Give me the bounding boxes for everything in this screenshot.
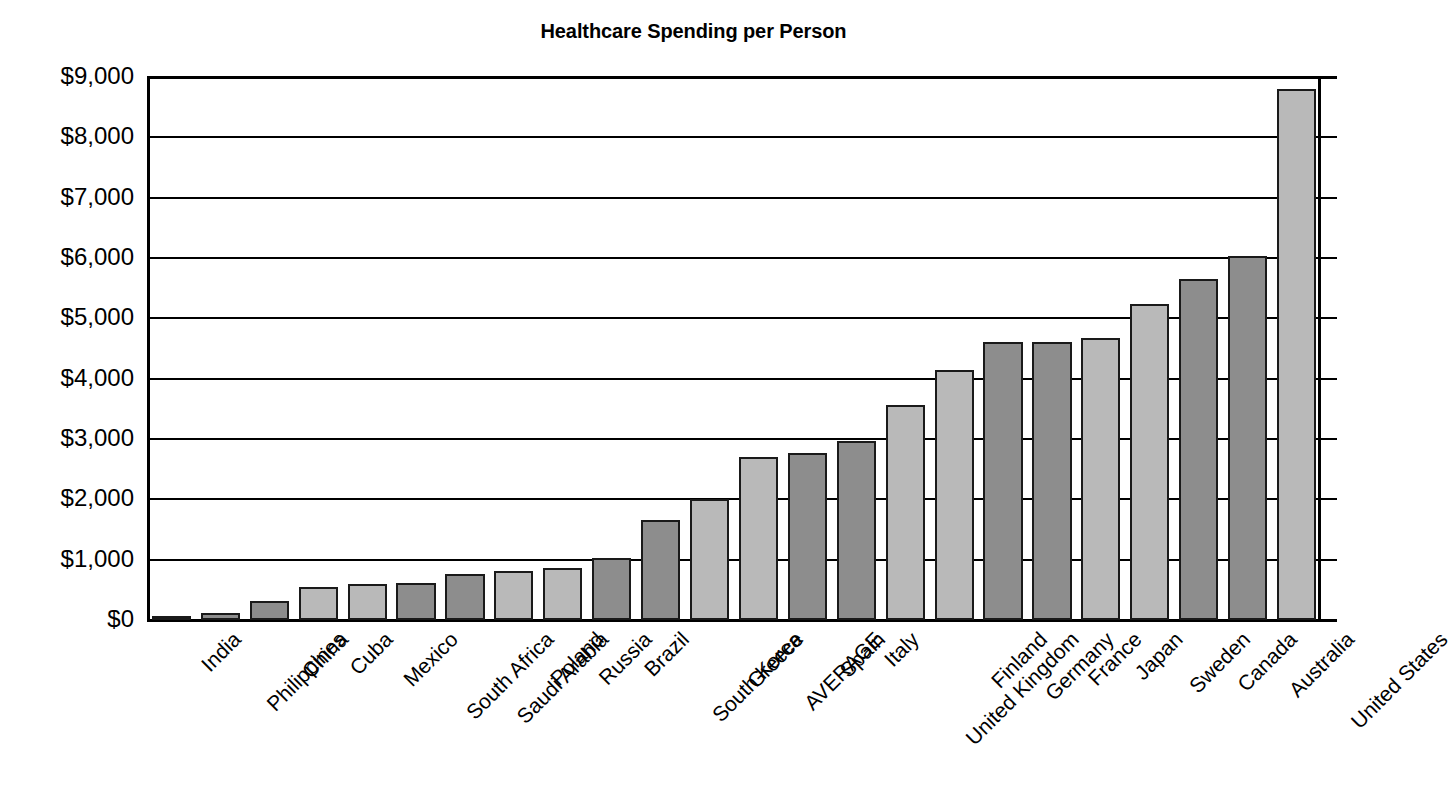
y-tick-label: $2,000: [24, 486, 134, 510]
x-tick-label-greece: Greece: [743, 628, 807, 692]
x-tick-label-india: India: [198, 628, 245, 675]
x-tick-label-finland: Finland: [987, 628, 1051, 692]
bar-japan: [1081, 338, 1120, 620]
bar-philippines: [201, 613, 240, 620]
bar-china: [250, 601, 289, 620]
bar-average: [739, 457, 778, 621]
x-tick-label-spain: Spain: [836, 628, 889, 681]
y-tick-label: $8,000: [24, 124, 134, 148]
x-tick-label-mexico: Mexico: [400, 628, 462, 690]
y-tick-label: $3,000: [24, 426, 134, 450]
x-tick-label-france: France: [1084, 628, 1145, 689]
bar-germany: [983, 342, 1022, 620]
x-tick-label-south-korea: South Korea: [708, 628, 805, 725]
bar-sweden: [1130, 304, 1169, 620]
x-tick-label-average: AVERAGE: [801, 628, 887, 714]
bar-south-korea: [641, 520, 680, 620]
bar-poland: [494, 571, 533, 620]
bar-finland: [935, 370, 974, 620]
y-tick-label: $4,000: [24, 366, 134, 390]
bar-south-africa: [396, 583, 435, 620]
x-tick-label-united-kingdom: United Kingdom: [962, 628, 1083, 749]
bar-italy: [837, 441, 876, 620]
bar-united-kingdom: [886, 405, 925, 620]
bar-cuba: [299, 587, 338, 620]
x-tick-label-poland: Poland: [546, 628, 607, 689]
x-tick-label-china: China: [298, 628, 352, 682]
x-tick-label-brazil: Brazil: [640, 628, 692, 680]
x-tick-label-canada: Canada: [1233, 628, 1300, 695]
x-tick-label-australia: Australia: [1285, 628, 1358, 701]
x-tick-label-germany: Germany: [1041, 628, 1117, 704]
y-tick-label: $7,000: [24, 185, 134, 209]
bar-australia: [1228, 256, 1267, 620]
x-tick-label-sweden: Sweden: [1185, 628, 1254, 697]
bar-france: [1032, 342, 1071, 620]
y-tick-label: $5,000: [24, 305, 134, 329]
y-tick-label: $6,000: [24, 245, 134, 269]
x-tick-label-south-africa: South Africa: [462, 628, 557, 723]
bar-brazil: [592, 558, 631, 620]
bar-india: [152, 616, 191, 620]
x-tick-label-united-states: United States: [1346, 628, 1450, 732]
x-tick-label-japan: Japan: [1131, 628, 1186, 683]
bar-saudi-arabia: [445, 574, 484, 620]
y-tick-label: $0: [24, 607, 134, 631]
plot-area: [147, 77, 1321, 620]
y-tick-label: $9,000: [24, 64, 134, 88]
bar-mexico: [348, 584, 387, 620]
x-tick-label-italy: Italy: [881, 628, 923, 670]
bar-united-states: [1277, 89, 1316, 620]
y-tick-label: $1,000: [24, 547, 134, 571]
bar-canada: [1179, 279, 1218, 620]
bar-spain: [788, 453, 827, 620]
chart-title: Healthcare Spending per Person: [0, 20, 1387, 43]
x-tick-label-cuba: Cuba: [346, 628, 396, 678]
bar-russia: [543, 568, 582, 620]
x-tick-label-saudi-arabia: Saudi Arabia: [513, 628, 612, 727]
x-tick-label-philippines: Philippines: [263, 628, 350, 715]
x-tick-label-russia: Russia: [595, 628, 655, 688]
bar-greece: [690, 499, 729, 620]
